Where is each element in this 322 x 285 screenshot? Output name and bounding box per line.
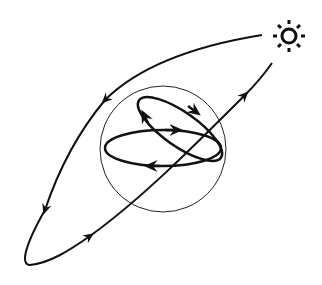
large-orbit-path bbox=[25, 35, 272, 265]
sun-icon bbox=[273, 20, 305, 52]
sphere-outline bbox=[100, 86, 226, 212]
orbit-diagram bbox=[0, 0, 322, 285]
